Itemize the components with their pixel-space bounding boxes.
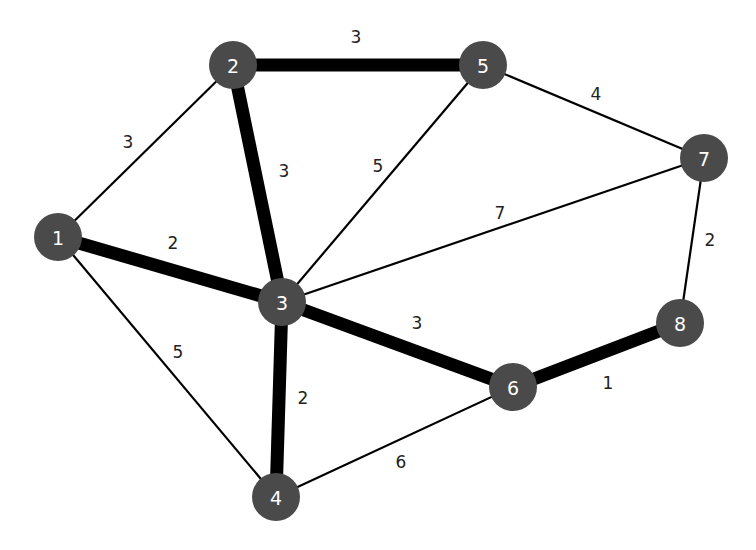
edge-1-4 (58, 237, 276, 497)
edge-1-2 (58, 65, 233, 237)
edge-4-6 (276, 387, 513, 497)
node-4: 4 (252, 473, 300, 521)
node-label: 7 (698, 148, 710, 170)
edge-weight-label: 6 (396, 452, 407, 472)
edges-layer (58, 65, 704, 497)
edge-weight-label: 2 (298, 388, 309, 408)
edge-weight-label: 3 (279, 161, 290, 181)
node-label: 2 (227, 55, 239, 77)
node-6: 6 (489, 363, 537, 411)
edge-3-5 (282, 65, 483, 302)
edge-6-8 (513, 323, 680, 387)
edge-weight-label: 2 (168, 233, 179, 253)
edge-5-7 (483, 65, 704, 158)
node-5: 5 (459, 41, 507, 89)
edge-3-7 (282, 158, 704, 302)
node-1: 1 (34, 213, 82, 261)
edge-weight-label: 1 (603, 373, 614, 393)
edge-weight-label: 3 (123, 132, 134, 152)
edge-7-8 (680, 158, 704, 323)
node-2: 2 (209, 41, 257, 89)
node-label: 3 (276, 292, 288, 314)
edge-weight-label: 5 (373, 156, 384, 176)
node-3: 3 (258, 278, 306, 326)
edge-2-3 (233, 65, 282, 302)
graph-diagram: 3253357326421 12345678 (0, 0, 756, 550)
edge-labels-layer: 3253357326421 (123, 27, 716, 472)
edge-weight-label: 4 (591, 84, 602, 104)
node-label: 6 (507, 377, 519, 399)
edge-3-6 (282, 302, 513, 387)
edge-weight-label: 5 (173, 342, 184, 362)
node-7: 7 (680, 134, 728, 182)
edge-weight-label: 3 (351, 27, 362, 47)
edge-weight-label: 3 (412, 313, 423, 333)
node-label: 4 (270, 487, 282, 509)
edge-3-4 (276, 302, 282, 497)
edge-weight-label: 2 (705, 230, 716, 250)
node-8: 8 (656, 299, 704, 347)
node-label: 8 (674, 313, 686, 335)
edge-weight-label: 7 (495, 203, 506, 223)
node-label: 5 (477, 55, 489, 77)
node-label: 1 (52, 227, 64, 249)
